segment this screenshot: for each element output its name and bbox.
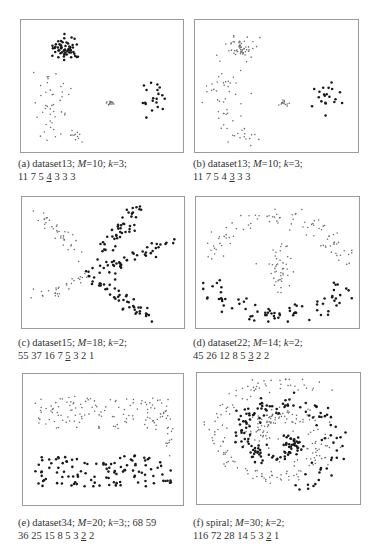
caption-line-2: 45 26 12 8 5 3 2 2: [193, 350, 303, 363]
scatter-points: [195, 20, 358, 152]
scatter-points: [197, 373, 360, 504]
scatter-points: [22, 197, 184, 328]
k-value: 2: [119, 337, 124, 348]
scatter-plot-a: [20, 19, 184, 153]
cluster-sizes-after: 2: [86, 530, 94, 541]
caption-d: (d) dataset22; M=14; k=2;45 26 12 8 5 3 …: [193, 337, 303, 362]
k-value: 3: [119, 517, 124, 528]
caption-line-1: (f) spiral; M=30; k=2;: [193, 517, 284, 530]
caption-label: (d) dataset22;: [193, 337, 253, 348]
m-value: 14: [268, 337, 279, 348]
m-value: 10: [92, 158, 103, 169]
caption-f: (f) spiral; M=30; k=2;116 72 28 14 5 3 2…: [193, 517, 284, 542]
caption-label: (a) dataset13;: [18, 158, 77, 169]
cluster-sizes-after: 3 3 3: [52, 171, 76, 182]
scatter-plot-b: [194, 19, 359, 153]
scatter-points: [21, 20, 183, 152]
caption-c: (c) dataset15; M=18; k=2;55 37 16 7 5 3 …: [18, 337, 127, 362]
cluster-sizes-before: 11 7 5 4: [193, 171, 229, 182]
caption-line-1: (a) dataset13; M=10; k=3;: [18, 158, 127, 171]
caption-label: (f) spiral;: [193, 517, 235, 528]
cluster-sizes-after: 3 2 1: [71, 350, 95, 361]
caption-line-2: 11 7 5 4 3 3 3: [193, 171, 303, 184]
cluster-sizes-after: 2 2: [253, 350, 269, 361]
caption-line-1: (b) dataset13; M=10; k=3;: [193, 158, 303, 171]
scatter-plot-f: [196, 372, 361, 505]
caption-line-2: 55 37 16 7 5 3 2 1: [18, 350, 127, 363]
scatter-plot-c: [21, 196, 185, 329]
cluster-sizes-after: 1: [271, 530, 279, 541]
k-value: 3: [119, 158, 124, 169]
caption-label: (b) dataset13;: [193, 158, 253, 169]
cluster-sizes-before: 116 72 28 14 5 3: [193, 530, 266, 541]
scatter-points: [23, 374, 183, 505]
scatter-points: [196, 197, 359, 328]
k-value: 3: [294, 158, 299, 169]
cluster-sizes-after: 3 3: [235, 171, 251, 182]
caption-label: (c) dataset15;: [18, 337, 77, 348]
scatter-plot-d: [195, 196, 360, 329]
caption-line-2: 116 72 28 14 5 3 2 1: [193, 530, 284, 543]
cluster-sizes-before: 55 37 16 7: [18, 350, 65, 361]
m-value: 20: [92, 517, 103, 528]
caption-suffix: ; 68 59: [127, 517, 156, 528]
caption-b: (b) dataset13; M=10; k=3;11 7 5 4 3 3 3: [193, 158, 303, 183]
caption-line-1: (c) dataset15; M=18; k=2;: [18, 337, 127, 350]
caption-line-2: 36 25 15 8 5 3 2 2: [18, 530, 156, 543]
k-value: 2: [294, 337, 299, 348]
m-value: 18: [92, 337, 103, 348]
caption-line-1: (e) dataset34; M=20; k=3;; 68 59: [18, 517, 156, 530]
m-value: 30: [250, 517, 261, 528]
cluster-sizes-before: 45 26 12 8 5: [193, 350, 248, 361]
cluster-sizes-before: 36 25 15 8 5 3: [18, 530, 81, 541]
caption-line-2: 11 7 5 4 3 3 3: [18, 171, 127, 184]
k-value: 2: [276, 517, 281, 528]
m-value: 10: [268, 158, 279, 169]
caption-label: (e) dataset34;: [18, 517, 77, 528]
caption-a: (a) dataset13; M=10; k=3;11 7 5 4 3 3 3: [18, 158, 127, 183]
caption-e: (e) dataset34; M=20; k=3;; 68 5936 25 15…: [18, 517, 156, 542]
caption-line-1: (d) dataset22; M=14; k=2;: [193, 337, 303, 350]
cluster-sizes-before: 11 7 5: [18, 171, 47, 182]
scatter-plot-e: [22, 373, 184, 506]
